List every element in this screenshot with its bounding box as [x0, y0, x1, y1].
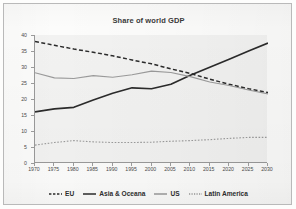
- page-frame: Share of world GDP Percentage (%) EUAsia…: [3, 3, 292, 205]
- y-axis-tick-label: 10: [5, 128, 27, 134]
- series-line-latin-america: [35, 137, 268, 145]
- x-axis-tick-mark: [112, 163, 113, 166]
- series-canvas: [35, 35, 268, 163]
- y-axis-tick-mark: [31, 115, 34, 116]
- y-axis-tick-mark: [31, 51, 34, 52]
- plot-area: [34, 35, 267, 163]
- y-axis-tick-mark: [31, 147, 34, 148]
- legend-swatch-solid-icon: [154, 191, 167, 197]
- y-axis-tick-label: 35: [5, 48, 27, 54]
- y-axis-tick-label: 15: [5, 112, 27, 118]
- legend-swatch-solid-icon: [83, 191, 96, 197]
- y-axis-tick-mark: [31, 99, 34, 100]
- y-axis-tick-label: 40: [5, 32, 27, 38]
- x-axis-tick-mark: [53, 163, 54, 166]
- legend-label: Latin America: [205, 190, 248, 197]
- chart-page: Share of world GDP Percentage (%) EUAsia…: [0, 0, 296, 209]
- legend-item[interactable]: US: [154, 190, 179, 197]
- legend-item[interactable]: EU: [49, 190, 74, 197]
- y-axis-tick-mark: [31, 35, 34, 36]
- x-axis-tick-mark: [267, 163, 268, 166]
- x-axis-tick-mark: [92, 163, 93, 166]
- y-axis-tick-mark: [31, 83, 34, 84]
- series-line-eu: [35, 41, 268, 92]
- y-axis-tick-label: 5: [5, 144, 27, 150]
- legend-swatch-dashed-icon: [49, 191, 62, 197]
- x-axis-tick-mark: [248, 163, 249, 166]
- x-axis-tick-mark: [73, 163, 74, 166]
- y-axis-tick-label: 30: [5, 64, 27, 70]
- legend-label: US: [170, 190, 179, 197]
- x-axis-tick-mark: [189, 163, 190, 166]
- x-axis-tick-mark: [151, 163, 152, 166]
- x-axis-tick-mark: [131, 163, 132, 166]
- x-axis-tick-mark: [34, 163, 35, 166]
- y-axis-tick-mark: [31, 131, 34, 132]
- legend-item[interactable]: Latin America: [189, 190, 248, 197]
- x-axis-tick-mark: [228, 163, 229, 166]
- legend: EUAsia & OceanaUSLatin America: [4, 190, 293, 197]
- y-axis-tick-label: 20: [5, 96, 27, 102]
- legend-label: Asia & Oceana: [99, 190, 145, 197]
- series-line-us: [35, 71, 268, 94]
- x-axis-tick-mark: [209, 163, 210, 166]
- x-axis-tick-label: 2030: [255, 166, 279, 172]
- y-axis-tick-label: 25: [5, 80, 27, 86]
- legend-swatch-dotted-icon: [189, 191, 202, 197]
- y-axis-tick-mark: [31, 67, 34, 68]
- legend-label: EU: [65, 190, 74, 197]
- series-line-asia-oceana: [35, 43, 268, 112]
- x-axis-tick-mark: [170, 163, 171, 166]
- legend-item[interactable]: Asia & Oceana: [83, 190, 145, 197]
